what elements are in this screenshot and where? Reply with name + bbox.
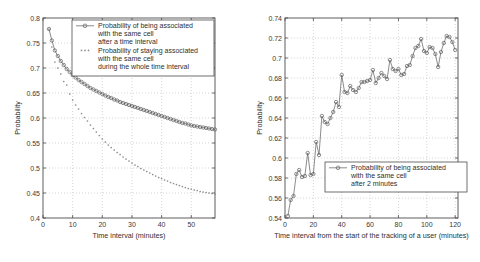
series-dot bbox=[116, 152, 118, 154]
series-dot bbox=[202, 191, 204, 193]
series-dot bbox=[187, 188, 189, 190]
x-tick-label: 120 bbox=[449, 221, 461, 228]
series-dot bbox=[48, 28, 50, 30]
series-dot bbox=[93, 128, 95, 130]
series-dot bbox=[81, 113, 83, 115]
series-dot bbox=[140, 168, 142, 170]
series-dot bbox=[146, 171, 148, 173]
legend-entry-text: after 2 minutes bbox=[351, 180, 398, 187]
y-tick-label: 0.65 bbox=[26, 90, 40, 97]
series-dot bbox=[173, 183, 175, 185]
series-dot bbox=[57, 67, 59, 69]
series-dot bbox=[182, 186, 184, 188]
y-tick-label: 0.4 bbox=[30, 215, 40, 222]
series-dot bbox=[131, 162, 133, 164]
series-dot bbox=[72, 99, 74, 101]
legend-entry-text: Probability of being associated bbox=[351, 164, 446, 172]
y-tick-label: 0.64 bbox=[268, 115, 282, 122]
x-tick-label: 100 bbox=[421, 221, 433, 228]
y-tick-label: 0.45 bbox=[26, 190, 40, 197]
y-tick-label: 0.58 bbox=[268, 175, 282, 182]
series-dot bbox=[137, 166, 139, 168]
series-dot bbox=[84, 117, 86, 119]
series-dot bbox=[78, 108, 80, 110]
series-dot bbox=[128, 160, 130, 162]
series-dot bbox=[179, 185, 181, 187]
series-dot bbox=[190, 188, 192, 190]
x-tick-label: 0 bbox=[41, 221, 45, 228]
series-dot bbox=[170, 182, 172, 184]
series-dot bbox=[101, 138, 103, 140]
legend-entry-text: with the same cell bbox=[97, 30, 154, 37]
series-dot bbox=[199, 191, 201, 193]
y-tick-label: 0.66 bbox=[268, 95, 282, 102]
series-dot bbox=[161, 178, 163, 180]
series-dot bbox=[63, 81, 65, 83]
series-dot bbox=[90, 124, 92, 126]
series-dot bbox=[208, 192, 210, 194]
legend-entry-text: after a time interval bbox=[98, 38, 158, 45]
x-tick-label: 10 bbox=[69, 221, 77, 228]
series-dot bbox=[60, 73, 62, 75]
x-tick-label: 20 bbox=[309, 221, 317, 228]
x-tick-label: 0 bbox=[283, 221, 287, 228]
series-dot bbox=[66, 84, 68, 86]
series-dot bbox=[87, 120, 89, 122]
figure-two-panel-charts: 010203040500.40.450.50.550.60.650.70.750… bbox=[0, 0, 480, 262]
x-tick-label: 40 bbox=[158, 221, 166, 228]
x-tick-label: 60 bbox=[366, 221, 374, 228]
y-tick-label: 0.62 bbox=[268, 135, 282, 142]
y-tick-label: 0.6 bbox=[30, 115, 40, 122]
legend-entry-text: Probability of being associated bbox=[98, 22, 193, 30]
y-tick-label: 0.7 bbox=[272, 55, 282, 62]
y-tick-label: 0.56 bbox=[268, 195, 282, 202]
series-dot bbox=[96, 131, 98, 133]
legend-marker-dot bbox=[81, 50, 83, 52]
x-tick-label: 80 bbox=[395, 221, 403, 228]
series-dot bbox=[214, 193, 216, 195]
series-dot bbox=[104, 141, 106, 143]
series-dot bbox=[110, 147, 112, 149]
series-dot bbox=[184, 187, 186, 189]
series-dot bbox=[54, 61, 56, 63]
y-tick-label: 0.6 bbox=[272, 155, 282, 162]
y-tick-label: 0.72 bbox=[268, 35, 282, 42]
x-axis-title: Time interval from the start of the trac… bbox=[274, 231, 468, 240]
series-dot bbox=[98, 135, 100, 137]
y-tick-label: 0.55 bbox=[26, 140, 40, 147]
series-dot bbox=[167, 180, 169, 182]
series-dot bbox=[211, 193, 213, 195]
series-dot bbox=[125, 158, 127, 160]
series-dot bbox=[149, 172, 151, 174]
right-chart-svg: 0204060801001200.540.560.580.60.620.640.… bbox=[240, 0, 480, 262]
y-tick-label: 0.75 bbox=[26, 40, 40, 47]
legend-entry-text: with the same cell bbox=[97, 55, 154, 62]
y-axis-title: Probability bbox=[255, 101, 264, 135]
series-dot bbox=[196, 190, 198, 192]
series-dot bbox=[51, 46, 53, 48]
series-dot bbox=[69, 93, 71, 95]
series-dot bbox=[193, 189, 195, 191]
series-dot bbox=[152, 174, 154, 176]
y-tick-label: 0.68 bbox=[268, 75, 282, 82]
x-tick-label: 30 bbox=[128, 221, 136, 228]
series-dot bbox=[75, 104, 77, 106]
series-dot bbox=[107, 144, 109, 146]
y-tick-label: 0.54 bbox=[268, 215, 282, 222]
y-axis-title: Probability bbox=[13, 101, 22, 135]
chart-panel-right: 0204060801001200.540.560.580.60.620.640.… bbox=[240, 0, 480, 262]
legend-marker-dot bbox=[84, 50, 86, 52]
legend-entry-text: Probability of staying associated bbox=[98, 47, 198, 55]
y-tick-label: 0.8 bbox=[30, 15, 40, 22]
legend-entry-text: with the same cell bbox=[350, 172, 407, 179]
left-chart-svg: 010203040500.40.450.50.550.60.650.70.750… bbox=[0, 0, 240, 262]
series-dot bbox=[176, 184, 178, 186]
series-dot bbox=[158, 177, 160, 179]
series-dot bbox=[164, 179, 166, 181]
series-dot bbox=[143, 169, 145, 171]
x-tick-label: 40 bbox=[338, 221, 346, 228]
legend-entry-text: during the whole time interval bbox=[98, 63, 189, 71]
series-dot bbox=[122, 156, 124, 158]
x-tick-label: 20 bbox=[98, 221, 106, 228]
series-dot bbox=[119, 154, 121, 156]
